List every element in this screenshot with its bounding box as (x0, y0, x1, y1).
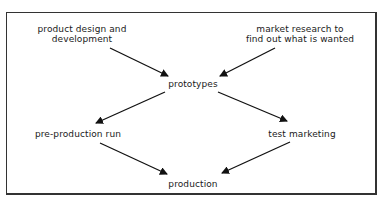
node-test-marketing-label: test marketing (262, 129, 342, 139)
node-pre-production-run-label: pre-production run (28, 129, 128, 139)
node-test-marketing: test marketing (262, 129, 342, 139)
node-prototypes-label: prototypes (160, 79, 226, 89)
edge-research-to-prototypes (220, 48, 275, 76)
node-product-design-line1: product design and (32, 24, 132, 34)
edge-design-to-prototypes (110, 48, 168, 76)
edge-prototypes-to-preproduction (96, 92, 165, 123)
node-pre-production-run: pre-production run (28, 129, 128, 139)
edge-prototypes-to-testmarketing (218, 92, 287, 121)
node-market-research-line1: market research to (240, 24, 360, 34)
node-prototypes: prototypes (160, 79, 226, 89)
edge-testmarketing-to-production (222, 142, 290, 173)
node-market-research: market research to find out what is want… (240, 24, 360, 44)
node-market-research-line2: find out what is wanted (240, 34, 360, 44)
edge-preproduction-to-production (100, 143, 167, 174)
node-production: production (160, 179, 226, 189)
node-product-design: product design and development (32, 24, 132, 44)
node-product-design-line2: development (32, 34, 132, 44)
node-production-label: production (160, 179, 226, 189)
